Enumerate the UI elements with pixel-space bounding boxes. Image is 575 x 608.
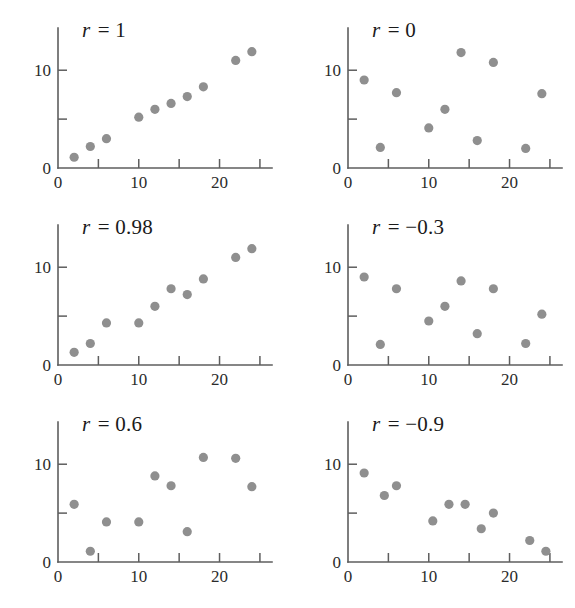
correlation-r-value: = 1 (98, 18, 126, 42)
x-axis-tick-label: 10 (420, 173, 437, 192)
data-point (360, 468, 369, 477)
data-point-group (360, 468, 551, 555)
data-point (473, 329, 482, 338)
data-point (150, 471, 159, 480)
correlation-r-value: = 0.6 (98, 412, 142, 436)
data-point (70, 500, 79, 509)
data-point (392, 481, 401, 490)
y-axis-tick-label: 10 (324, 61, 341, 80)
data-point (440, 105, 449, 114)
data-point (150, 302, 159, 311)
correlation-r-value: = 0 (388, 18, 416, 42)
data-point (199, 274, 208, 283)
x-axis-tick-label: 0 (344, 370, 353, 389)
scatter-panel: 01001020r = 0 (300, 8, 565, 198)
correlation-label: r = 0 (372, 18, 416, 43)
data-point (376, 340, 385, 349)
data-point (525, 536, 534, 545)
data-point (86, 142, 95, 151)
panel-plot-area: 01001020 (10, 402, 275, 592)
x-axis-tick-label: 0 (54, 370, 63, 389)
data-point (166, 99, 175, 108)
y-axis-tick-label: 0 (43, 356, 52, 375)
data-point (376, 143, 385, 152)
data-point (360, 272, 369, 281)
correlation-r-symbol: r (82, 18, 92, 42)
data-point (134, 318, 143, 327)
data-point (183, 527, 192, 536)
x-axis-tick-label: 20 (211, 567, 228, 586)
correlation-r-symbol: r (82, 412, 92, 436)
data-point (247, 482, 256, 491)
correlation-label: r = 0.98 (82, 215, 153, 240)
scatterplot-grid-figure: 01001020r = 101001020r = 001001020r = 0.… (0, 0, 575, 608)
correlation-r-symbol: r (372, 412, 382, 436)
scatter-panel: 01001020r = −0.9 (300, 402, 565, 592)
data-point (231, 56, 240, 65)
data-point (247, 47, 256, 56)
x-axis-tick-label: 0 (344, 567, 353, 586)
data-point (70, 153, 79, 162)
data-point (102, 134, 111, 143)
data-point (134, 517, 143, 526)
data-point (489, 284, 498, 293)
x-axis-tick-label: 10 (130, 173, 147, 192)
data-point (473, 136, 482, 145)
data-point (183, 290, 192, 299)
data-point (428, 516, 437, 525)
x-axis-tick-label: 0 (54, 173, 63, 192)
correlation-label: r = −0.9 (372, 412, 444, 437)
y-axis-tick-label: 10 (34, 258, 51, 277)
scatter-panel: 01001020r = 0.6 (10, 402, 275, 592)
correlation-r-value: = −0.9 (388, 412, 444, 436)
correlation-r-value: = 0.98 (98, 215, 153, 239)
y-axis-tick-label: 0 (333, 356, 342, 375)
correlation-label: r = 1 (82, 18, 126, 43)
data-point-group (70, 453, 257, 556)
y-axis-tick-label: 0 (43, 553, 52, 572)
data-point (150, 105, 159, 114)
data-point (477, 524, 486, 533)
correlation-label: r = −0.3 (372, 215, 444, 240)
data-point (380, 491, 389, 500)
data-point (456, 48, 465, 57)
data-point (199, 82, 208, 91)
y-axis-tick-label: 0 (333, 159, 342, 178)
data-point (183, 92, 192, 101)
data-point (134, 113, 143, 122)
x-axis-tick-label: 10 (420, 370, 437, 389)
x-axis-tick-label: 10 (130, 370, 147, 389)
data-point (199, 453, 208, 462)
correlation-r-value: = −0.3 (388, 215, 444, 239)
y-axis-tick-label: 10 (34, 455, 51, 474)
correlation-label: r = 0.6 (82, 412, 142, 437)
data-point (166, 481, 175, 490)
data-point (102, 318, 111, 327)
data-point (86, 547, 95, 556)
y-axis-tick-label: 10 (324, 455, 341, 474)
data-point (537, 310, 546, 319)
data-point (521, 144, 530, 153)
data-point (521, 339, 530, 348)
data-point-group (70, 244, 257, 357)
panel-plot-area: 01001020 (10, 8, 275, 198)
data-point (541, 547, 550, 556)
y-axis-tick-label: 0 (43, 159, 52, 178)
x-axis-tick-label: 20 (211, 173, 228, 192)
x-axis-tick-label: 0 (54, 567, 63, 586)
data-point (231, 253, 240, 262)
data-point (444, 500, 453, 509)
data-point (537, 89, 546, 98)
data-point (86, 339, 95, 348)
y-axis-tick-label: 0 (333, 553, 342, 572)
x-axis-tick-label: 0 (344, 173, 353, 192)
data-point (424, 123, 433, 132)
data-point (461, 500, 470, 509)
x-axis-tick-label: 10 (420, 567, 437, 586)
data-point (392, 284, 401, 293)
data-point (392, 88, 401, 97)
data-point (247, 244, 256, 253)
data-point (360, 75, 369, 84)
data-point (231, 454, 240, 463)
y-axis-tick-label: 10 (324, 258, 341, 277)
